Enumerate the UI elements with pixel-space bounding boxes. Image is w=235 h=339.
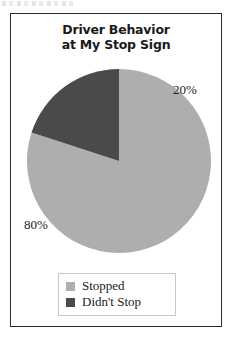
legend-label-stopped: Stopped	[82, 279, 125, 293]
legend-label-didnt-stop: Didn't Stop	[82, 295, 141, 309]
legend-item-stopped[interactable]: Stopped	[66, 278, 167, 294]
legend-item-didnt-stop[interactable]: Didn't Stop	[66, 294, 167, 310]
legend-swatch-icon-didnt-stop	[66, 298, 75, 307]
legend-swatch-icon-stopped	[66, 282, 75, 291]
chart-legend: Stopped Didn't Stop	[58, 273, 176, 316]
pie-label-didnt-stop: 20%	[173, 82, 197, 98]
pie-chart-figure: Driver Behavior at My Stop Sign 80% 20% …	[10, 13, 222, 327]
pie-label-stopped: 80%	[24, 217, 48, 233]
scan-artifact	[2, 1, 74, 6]
